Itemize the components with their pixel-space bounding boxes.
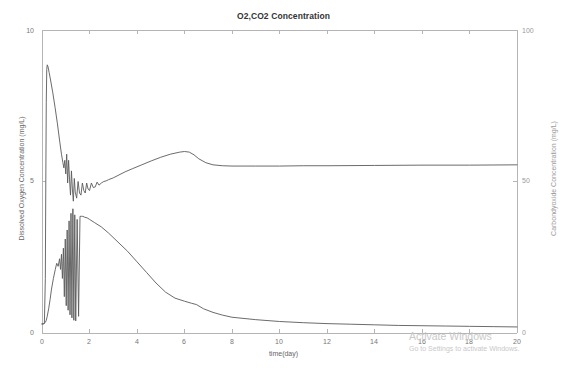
series-lines bbox=[42, 65, 517, 327]
series-line-0 bbox=[42, 65, 517, 324]
axes-frame bbox=[42, 30, 517, 333]
chart-figure: O2,CO2 Concentration Dissolved Oxygen Co… bbox=[0, 0, 567, 373]
series-line-1 bbox=[42, 209, 517, 327]
plot-area bbox=[0, 0, 567, 373]
